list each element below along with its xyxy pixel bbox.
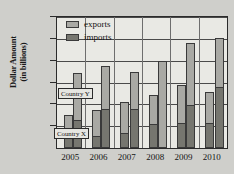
bar-segment-exports: [93, 111, 100, 136]
chart-legend: exports imports: [66, 19, 112, 42]
bar-segment-exports: [102, 67, 109, 109]
bar-segment-exports: [187, 44, 194, 105]
bar-segment-exports: [150, 96, 157, 124]
bar-country-y-2006: [101, 66, 110, 148]
bar-segment-imports: [131, 109, 138, 147]
x-tick-label-2010: 2010: [192, 152, 232, 162]
legend-swatch-exports: [66, 21, 79, 28]
bar-country-x-2006: [92, 110, 101, 148]
bar-segment-exports: [121, 103, 128, 133]
y-axis-title-line2: (in billions): [18, 23, 28, 101]
category-separator-4: [170, 17, 171, 148]
bar-segment-imports: [150, 124, 157, 147]
bar-country-x-2009: [177, 85, 186, 148]
callout-country-x: Country X: [54, 128, 89, 139]
y-tick-mark-120: [50, 16, 56, 17]
category-separator-5: [199, 17, 200, 148]
bar-segment-imports: [121, 133, 128, 147]
y-tick-mark-20: [50, 125, 56, 126]
y-axis-title-line1: Dollar Amount: [8, 23, 18, 101]
category-separator-3: [142, 17, 143, 148]
bar-segment-exports: [216, 39, 223, 87]
bar-segment-imports: [93, 136, 100, 147]
y-axis-title: Dollar Amount (in billions): [8, 23, 28, 101]
bar-segment-imports: [206, 123, 213, 147]
y-tick-mark-60: [50, 82, 56, 83]
bar-country-x-2008: [149, 95, 158, 148]
y-tick-mark-80: [50, 60, 56, 61]
y-tick-mark-40: [50, 103, 56, 104]
bar-segment-exports: [178, 86, 185, 123]
bar-segment-imports: [102, 109, 109, 147]
bar-segment-exports: [159, 62, 166, 147]
bar-country-x-2007: [120, 102, 129, 148]
legend-swatch-imports: [66, 34, 79, 41]
bar-country-y-2010: [215, 38, 224, 148]
bar-country-y-2009: [186, 43, 195, 148]
legend-label-exports: exports: [84, 19, 111, 29]
legend-item-imports: imports: [66, 32, 112, 42]
category-separator-2: [114, 17, 115, 148]
bar-country-y-2008: [158, 61, 167, 148]
bar-segment-imports: [65, 138, 72, 147]
legend-item-exports: exports: [66, 19, 112, 29]
callout-country-y: Country Y: [58, 88, 93, 99]
bar-segment-imports: [178, 123, 185, 147]
bar-segment-imports: [216, 87, 223, 147]
legend-label-imports: imports: [84, 32, 112, 42]
bar-chart: Dollar Amount (in billions) exports impo…: [0, 0, 234, 174]
y-tick-mark-100: [50, 38, 56, 39]
bar-country-x-2010: [205, 92, 214, 148]
bar-segment-exports: [206, 93, 213, 122]
bar-segment-exports: [131, 73, 138, 109]
bar-segment-imports: [187, 105, 194, 147]
bar-country-y-2007: [130, 72, 139, 148]
